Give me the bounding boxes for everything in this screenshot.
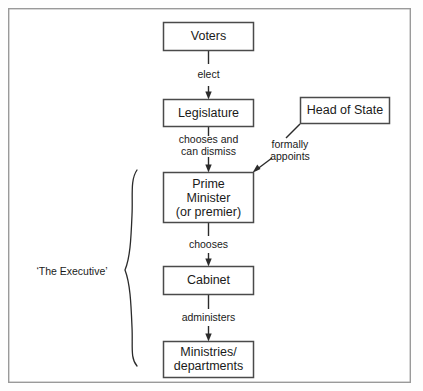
edge-label-chooses-and: chooses and	[179, 133, 239, 145]
edge-label-elect: elect	[197, 68, 219, 80]
node-head-of-state[interactable]: Head of State	[301, 98, 390, 124]
node-head-of-state-label: Head of State	[307, 103, 383, 117]
node-ministries[interactable]: Ministries/ departments	[164, 342, 254, 378]
edge-label-appoints: appoints	[270, 150, 310, 162]
group-label-executive: ‘The Executive’	[36, 265, 107, 277]
node-prime-minister-label-line-1: Prime	[192, 177, 225, 191]
edge-label-can-dismiss: can dismiss	[181, 145, 236, 157]
diagram-canvas: Voters Legislature Head of State Prime M…	[0, 0, 423, 391]
node-prime-minister-label-line-2: Minister	[187, 191, 231, 205]
edge-label-administers: administers	[182, 311, 236, 323]
edge-label-chooses: chooses	[189, 238, 228, 250]
node-legislature[interactable]: Legislature	[164, 100, 254, 127]
node-cabinet[interactable]: Cabinet	[164, 267, 254, 295]
flowchart-diagram: Voters Legislature Head of State Prime M…	[0, 0, 423, 391]
node-prime-minister-label-line-3: (or premier)	[176, 205, 241, 219]
node-cabinet-label: Cabinet	[187, 273, 231, 287]
edge-label-formally: formally	[272, 138, 310, 150]
node-prime-minister[interactable]: Prime Minister (or premier)	[164, 173, 254, 223]
node-ministries-label-line-1: Ministries/	[180, 345, 237, 359]
node-legislature-label: Legislature	[178, 106, 239, 120]
node-voters[interactable]: Voters	[164, 23, 254, 51]
node-voters-label: Voters	[191, 29, 226, 43]
node-ministries-label-line-2: departments	[174, 359, 243, 373]
